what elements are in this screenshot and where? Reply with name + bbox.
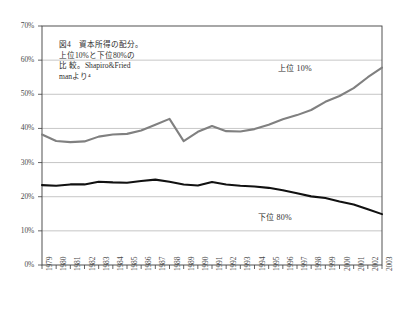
gridlines <box>42 60 382 231</box>
x-tick-label: 1991 <box>215 257 224 271</box>
x-tick-label: 1979 <box>45 257 54 271</box>
x-tick-label: 1986 <box>144 257 153 271</box>
y-tick-label: 20% <box>6 192 34 201</box>
x-tick-label: 2002 <box>371 257 380 271</box>
x-tick-label: 1987 <box>158 257 167 271</box>
x-tick-label: 1988 <box>173 257 182 271</box>
x-tick-label: 1980 <box>59 257 68 271</box>
y-tick-label: 10% <box>6 226 34 235</box>
x-tick-label: 1992 <box>229 257 238 271</box>
series-label-bottom80: 下位 80% <box>258 211 292 222</box>
capital-income-distribution-chart: 0%10%20%30%40%50%60%70% 1979198019811982… <box>0 0 403 311</box>
y-axis-ticks <box>38 26 42 265</box>
x-tick-label: 1989 <box>187 257 196 271</box>
x-tick-label: 2000 <box>343 257 352 271</box>
figure-caption-annotation: 図4 資本所得の配分。 上位10%と下位80%の 比 較。Shapiro&Fri… <box>59 40 181 82</box>
x-tick-label: 1985 <box>130 257 139 271</box>
x-tick-label: 1984 <box>116 257 125 271</box>
x-tick-label: 2003 <box>385 257 394 271</box>
x-tick-label: 1999 <box>328 257 337 271</box>
y-tick-label: 40% <box>6 123 34 132</box>
x-tick-label: 1997 <box>300 257 309 271</box>
x-tick-label: 1996 <box>286 257 295 271</box>
y-tick-label: 0% <box>6 260 34 269</box>
y-tick-label: 70% <box>6 21 34 30</box>
y-tick-label: 30% <box>6 158 34 167</box>
x-tick-label: 1982 <box>88 257 97 271</box>
x-tick-label: 1995 <box>272 257 281 271</box>
y-tick-label: 60% <box>6 55 34 64</box>
x-tick-label: 1983 <box>102 257 111 271</box>
x-tick-label: 1990 <box>201 257 210 271</box>
x-tick-label: 2001 <box>357 257 366 271</box>
y-tick-label: 50% <box>6 89 34 98</box>
x-tick-label: 1994 <box>258 257 267 271</box>
series-label-top10: 上位 10% <box>278 62 312 73</box>
x-tick-label: 1998 <box>314 257 323 271</box>
x-tick-label: 1993 <box>243 257 252 271</box>
x-tick-label: 1981 <box>73 257 82 271</box>
